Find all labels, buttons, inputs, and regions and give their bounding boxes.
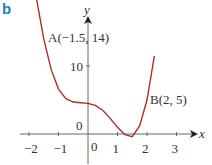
point-a-label: A(−1.5, 14) bbox=[48, 30, 109, 45]
x-ticks: −2−10123 bbox=[24, 132, 178, 156]
x-axis-label: x bbox=[198, 126, 205, 141]
svg-text:−1: −1 bbox=[54, 141, 68, 156]
y-ticks: 010 bbox=[70, 59, 90, 133]
svg-text:3: 3 bbox=[172, 141, 179, 156]
curve-line bbox=[36, 0, 154, 137]
svg-text:0: 0 bbox=[76, 118, 83, 133]
svg-text:−2: −2 bbox=[24, 141, 38, 156]
chart: −2−10123 010 x y A(−1.5, 14) B(2, 5) bbox=[0, 0, 212, 165]
svg-text:10: 10 bbox=[70, 59, 83, 74]
svg-text:1: 1 bbox=[113, 141, 120, 156]
svg-text:2: 2 bbox=[142, 141, 149, 156]
y-axis-label: y bbox=[82, 2, 90, 17]
svg-text:0: 0 bbox=[91, 139, 98, 154]
point-b-label: B(2, 5) bbox=[150, 92, 187, 107]
